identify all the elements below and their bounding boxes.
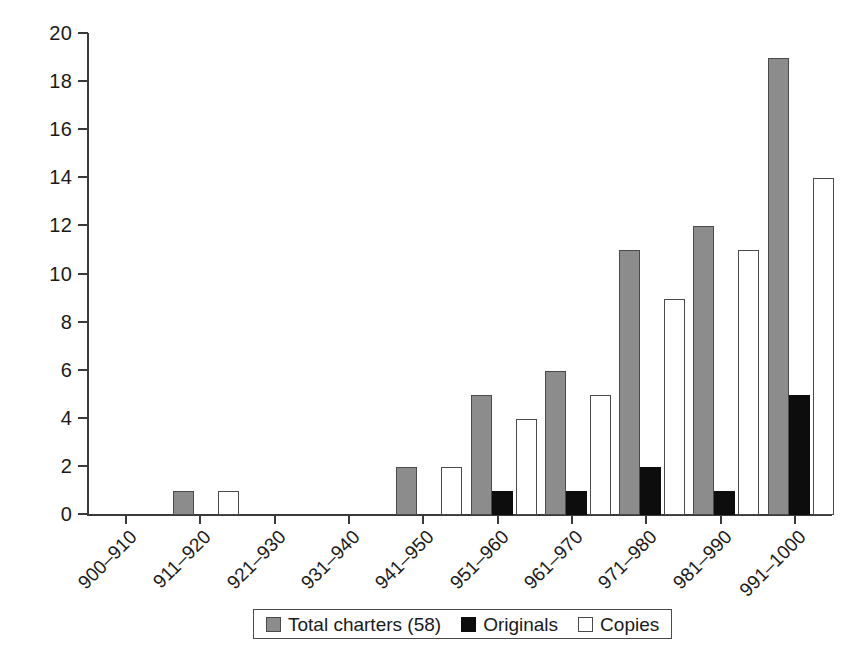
bar-group — [89, 33, 163, 515]
legend-item: Originals — [461, 615, 558, 634]
bar-total-charters — [173, 491, 194, 515]
bar-group — [238, 33, 312, 515]
bar-group — [535, 33, 609, 515]
x-axis-tick — [199, 516, 201, 524]
y-axis-tick — [78, 176, 88, 178]
bar-originals — [789, 395, 810, 515]
y-axis-tick-label: 16 — [12, 119, 72, 139]
x-axis-tick — [125, 516, 127, 524]
legend-label: Originals — [483, 615, 558, 634]
legend-label: Copies — [600, 615, 659, 634]
legend-swatch-icon — [461, 617, 476, 632]
y-axis-tick — [78, 369, 88, 371]
bar-chart: 02468101214161820 900–910911–920921–9309… — [0, 0, 846, 666]
y-axis-tick — [78, 80, 88, 82]
y-axis-tick-label: 12 — [12, 215, 72, 235]
y-axis-tick — [78, 513, 88, 515]
x-axis-tick — [571, 516, 573, 524]
bar-total-charters — [693, 226, 714, 515]
legend-swatch-icon — [266, 617, 281, 632]
bar-total-charters — [396, 467, 417, 515]
bar-total-charters — [471, 395, 492, 515]
bar-originals — [492, 491, 513, 515]
bar-copies — [664, 299, 685, 515]
bar-group — [683, 33, 757, 515]
plot-area — [89, 33, 832, 515]
y-axis-tick — [78, 273, 88, 275]
x-axis-tick — [720, 516, 722, 524]
y-axis-tick — [78, 417, 88, 419]
y-axis-tick-label: 10 — [12, 264, 72, 284]
x-axis-tick — [497, 516, 499, 524]
y-axis-tick-label: 18 — [12, 71, 72, 91]
bar-total-charters — [545, 371, 566, 515]
y-axis-tick — [78, 321, 88, 323]
bar-total-charters — [768, 58, 789, 515]
bar-group — [386, 33, 460, 515]
bar-group — [609, 33, 683, 515]
bar-total-charters — [619, 250, 640, 515]
x-axis-tick — [348, 516, 350, 524]
bar-copies — [590, 395, 611, 515]
bar-originals — [714, 491, 735, 515]
y-axis-tick-label: 4 — [12, 408, 72, 428]
y-axis-tick-label: 14 — [12, 167, 72, 187]
bar-copies — [218, 491, 239, 515]
bar-originals — [566, 491, 587, 515]
x-axis-tick-label: 900–910 — [0, 526, 142, 666]
chart-legend: Total charters (58)OriginalsCopies — [253, 609, 672, 639]
y-axis-tick — [78, 224, 88, 226]
x-axis-tick — [645, 516, 647, 524]
y-axis-tick-label: 20 — [12, 23, 72, 43]
y-axis-tick — [78, 128, 88, 130]
y-axis-tick-label: 8 — [12, 312, 72, 332]
bar-group — [312, 33, 386, 515]
legend-item: Total charters (58) — [266, 615, 441, 634]
bar-copies — [516, 419, 537, 515]
bar-copies — [441, 467, 462, 515]
bar-copies — [813, 178, 834, 515]
bar-group — [758, 33, 832, 515]
y-axis-tick-label: 0 — [12, 504, 72, 524]
bar-originals — [640, 467, 661, 515]
legend-swatch-icon — [578, 617, 593, 632]
bar-group — [163, 33, 237, 515]
x-axis-tick — [422, 516, 424, 524]
x-axis-tick — [794, 516, 796, 524]
y-axis-tick-label: 2 — [12, 456, 72, 476]
bar-group — [461, 33, 535, 515]
y-axis-tick-label: 6 — [12, 360, 72, 380]
x-axis-tick — [274, 516, 276, 524]
legend-label: Total charters (58) — [288, 615, 441, 634]
y-axis-tick — [78, 465, 88, 467]
legend-item: Copies — [578, 615, 659, 634]
y-axis-tick — [78, 32, 88, 34]
bar-copies — [738, 250, 759, 515]
